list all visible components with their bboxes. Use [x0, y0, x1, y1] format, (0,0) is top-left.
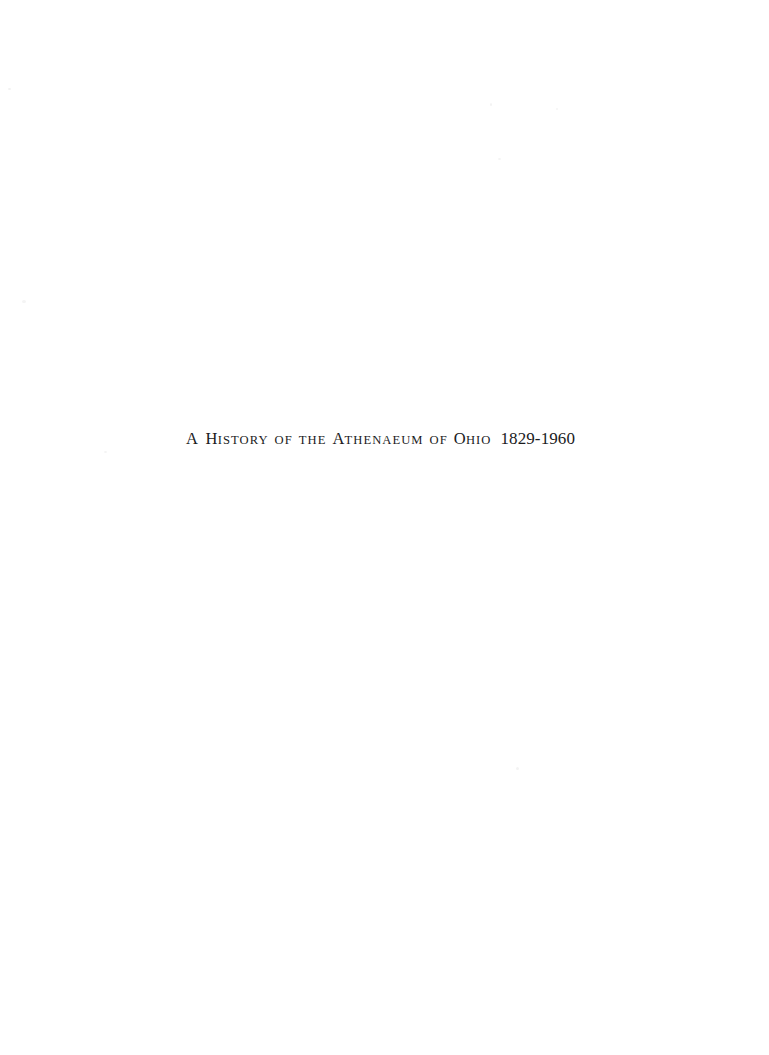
title-word-history-initial: H — [206, 429, 218, 448]
title-word-ohio-initial: O — [454, 429, 466, 448]
half-title-block: AHISTORYOFTHEATHENAEUMOFOHIO1829-1960 — [0, 430, 769, 448]
title-word-history-rest: ISTORY — [218, 433, 269, 447]
scan-artifact-speck — [8, 88, 11, 90]
title-word-of-first: OF — [275, 433, 293, 447]
scan-artifact-speck — [490, 103, 492, 106]
title-word-ohio-rest: HIO — [466, 433, 492, 447]
title-word-athenaeum-rest: THENAEUM — [345, 433, 424, 447]
scan-artifact-speck — [104, 451, 107, 453]
title-word-of-second: OF — [430, 433, 448, 447]
scan-artifact-speck — [556, 108, 558, 110]
scan-artifact-speck — [516, 767, 519, 770]
book-title-line: AHISTORYOFTHEATHENAEUMOFOHIO1829-1960 — [186, 430, 575, 448]
title-word-a-initial: A — [186, 429, 198, 448]
title-date-range: 1829-1960 — [500, 429, 575, 448]
scan-artifact-speck — [22, 300, 26, 303]
scan-artifact-speck — [498, 158, 501, 160]
page-sheet: AHISTORYOFTHEATHENAEUMOFOHIO1829-1960 — [0, 0, 769, 1055]
title-word-the: THE — [299, 433, 327, 447]
title-word-athenaeum-initial: A — [332, 429, 344, 448]
